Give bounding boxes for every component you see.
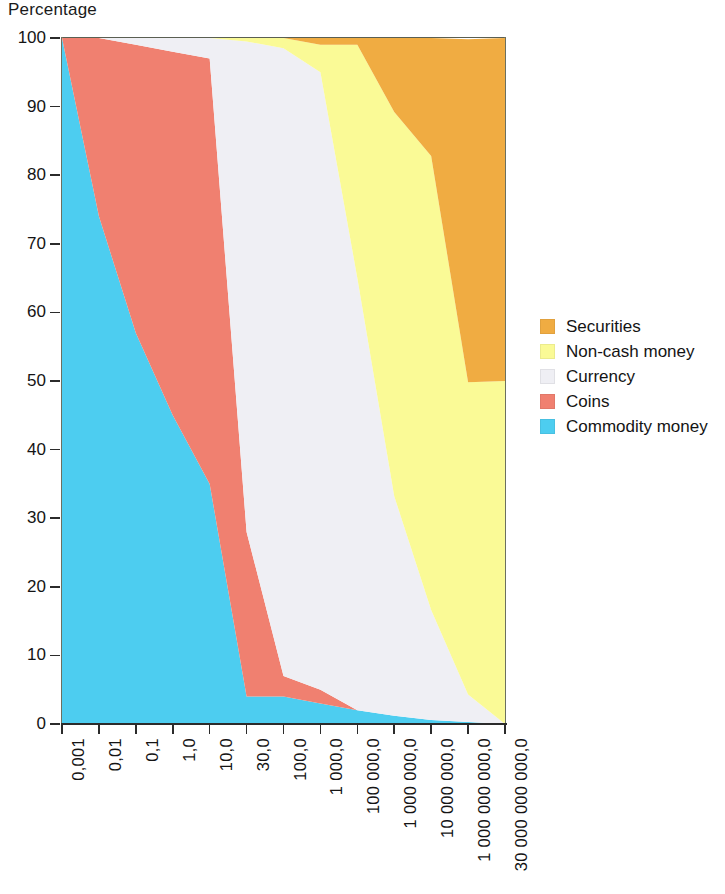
y-axis-tick-label: 80 xyxy=(4,166,46,183)
x-axis-tick xyxy=(320,725,322,734)
y-axis-tick-label: 30 xyxy=(4,509,46,526)
y-axis-tick-label: 50 xyxy=(4,372,46,389)
legend-item-label: Commodity money xyxy=(566,418,708,435)
y-axis-tick xyxy=(50,243,60,245)
x-axis-tick-label: 1 000 000,0 xyxy=(401,738,420,828)
x-axis-tick xyxy=(467,725,469,734)
x-axis-tick-label: 10,0 xyxy=(217,738,236,771)
y-axis-tick xyxy=(50,449,60,451)
y-axis-tick xyxy=(50,312,60,314)
x-axis-tick-label: 1 000 000 000,0 xyxy=(475,738,494,862)
legend-item[interactable]: Coins xyxy=(540,393,708,410)
x-axis-tick xyxy=(430,725,432,734)
legend-item-label: Coins xyxy=(566,393,609,410)
legend-swatch-icon xyxy=(540,319,555,334)
x-axis-tick xyxy=(209,725,211,734)
y-axis-tick-label: 60 xyxy=(4,303,46,320)
x-axis-tick xyxy=(135,725,137,734)
x-axis-tick-label: 0,01 xyxy=(106,738,125,771)
legend-item-label: Currency xyxy=(566,368,635,385)
legend: SecuritiesNon-cash moneyCurrencyCoinsCom… xyxy=(540,318,708,435)
y-axis-tick-label: 20 xyxy=(4,578,46,595)
legend-item[interactable]: Currency xyxy=(540,368,708,385)
legend-swatch-icon xyxy=(540,394,555,409)
plot-area xyxy=(62,38,505,724)
x-axis-tick-label: 1,0 xyxy=(180,738,199,762)
legend-item-label: Non-cash money xyxy=(566,343,695,360)
x-axis-tick-label: 1 000,0 xyxy=(327,738,346,795)
y-axis-tick-label: 70 xyxy=(4,235,46,252)
y-axis-tick-label: 10 xyxy=(4,646,46,663)
x-axis-tick-label: 100,0 xyxy=(291,738,310,781)
x-axis-tick-label: 100 000,0 xyxy=(364,738,383,814)
legend-swatch-icon xyxy=(540,369,555,384)
x-axis-tick xyxy=(61,725,63,734)
x-axis-tick-label: 30 000 000 000,0 xyxy=(512,738,531,871)
legend-swatch-icon xyxy=(540,419,555,434)
y-axis-labels: 0102030405060708090100 xyxy=(0,0,46,894)
area-series-svg xyxy=(62,38,505,724)
y-axis-tick xyxy=(50,723,60,725)
y-axis-tick-label: 90 xyxy=(4,98,46,115)
x-axis-tick-label: 10 000 000,0 xyxy=(438,738,457,838)
legend-swatch-icon xyxy=(540,344,555,359)
legend-item[interactable]: Non-cash money xyxy=(540,343,708,360)
legend-item[interactable]: Commodity money xyxy=(540,418,708,435)
y-axis-tick xyxy=(50,174,60,176)
y-axis-tick xyxy=(50,37,60,39)
x-axis-tick xyxy=(357,725,359,734)
stacked-area-chart: Percentage 0102030405060708090100 0,0010… xyxy=(0,0,725,894)
y-axis-tick xyxy=(50,586,60,588)
x-axis-tick xyxy=(283,725,285,734)
y-axis-tick-label: 40 xyxy=(4,441,46,458)
x-axis-tick-label: 0,1 xyxy=(143,738,162,762)
y-axis-tick xyxy=(50,380,60,382)
y-axis-tick xyxy=(50,655,60,657)
y-axis-tick-label: 100 xyxy=(4,29,46,46)
x-axis-tick xyxy=(172,725,174,734)
y-axis-tick xyxy=(50,106,60,108)
legend-item-label: Securities xyxy=(566,318,641,335)
legend-item[interactable]: Securities xyxy=(540,318,708,335)
x-axis-tick xyxy=(393,725,395,734)
x-axis-tick-label: 0,001 xyxy=(69,738,88,781)
x-axis-tick xyxy=(98,725,100,734)
x-axis-tick xyxy=(504,725,506,734)
y-axis-tick-label: 0 xyxy=(4,715,46,732)
x-axis-tick xyxy=(246,725,248,734)
x-axis-tick-label: 30,0 xyxy=(254,738,273,771)
y-axis-tick xyxy=(50,517,60,519)
